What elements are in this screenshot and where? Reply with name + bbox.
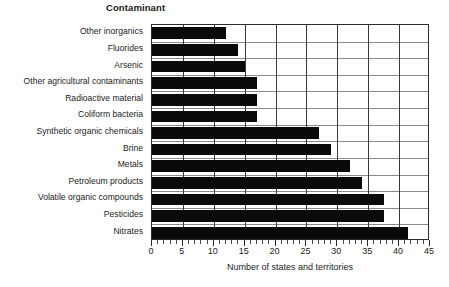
bar[interactable]	[152, 111, 257, 123]
category-label: Metals	[118, 159, 143, 169]
tick-minor	[410, 240, 411, 244]
x-tick-label: 10	[208, 246, 218, 256]
tick-minor	[170, 240, 171, 244]
x-tick-label: 45	[424, 246, 434, 256]
value-axis: 051015202530354045	[151, 240, 429, 254]
category-label: Volatile organic compounds	[38, 192, 143, 202]
tick-minor	[207, 240, 208, 244]
category-label: Pesticides	[104, 209, 143, 219]
page-title: Contaminant	[106, 2, 226, 13]
tick-minor	[194, 240, 195, 244]
x-tick-label: 20	[270, 246, 280, 256]
bar[interactable]	[152, 61, 245, 73]
tick-minor	[225, 240, 226, 244]
bar-row[interactable]	[152, 127, 428, 139]
bar-row[interactable]	[152, 44, 428, 56]
x-tick-label: 25	[300, 246, 310, 256]
category-label: Arsenic	[114, 60, 143, 70]
x-tick-label: 0	[148, 246, 153, 256]
category-label: Synthetic organic chemicals	[36, 126, 143, 136]
category-axis-labels: Other inorganicsFluoridesArsenicOther ag…	[0, 24, 147, 240]
category-label: Fluorides	[108, 43, 143, 53]
tick-minor	[293, 240, 294, 244]
tick-minor	[287, 240, 288, 244]
bar-row[interactable]	[152, 94, 428, 106]
tick-minor	[312, 240, 313, 244]
x-tick-label: 30	[331, 246, 341, 256]
bar[interactable]	[152, 160, 350, 172]
category-label: Other agricultural contaminants	[24, 76, 143, 86]
bar[interactable]	[152, 44, 238, 56]
bar-row[interactable]	[152, 111, 428, 123]
tick-minor	[200, 240, 201, 244]
tick-minor	[237, 240, 238, 244]
x-tick-label: 40	[393, 246, 403, 256]
bar-row[interactable]	[152, 144, 428, 156]
bar-row[interactable]	[152, 77, 428, 89]
tick-minor	[176, 240, 177, 244]
plot-area	[151, 24, 429, 240]
category-label: Other inorganics	[80, 26, 143, 36]
tick-minor	[299, 240, 300, 244]
bar-row[interactable]	[152, 194, 428, 206]
tick-minor	[262, 240, 263, 244]
tick-minor	[361, 240, 362, 244]
category-label: Brine	[123, 143, 143, 153]
bar-row[interactable]	[152, 61, 428, 73]
bar-row[interactable]	[152, 27, 428, 39]
bar[interactable]	[152, 210, 384, 222]
bar-chart-figure: Contaminant Other inorganicsFluoridesArs…	[0, 0, 449, 287]
tick-minor	[355, 240, 356, 244]
bar[interactable]	[152, 127, 319, 139]
category-label: Petroleum products	[68, 176, 143, 186]
tick-minor	[268, 240, 269, 244]
tick-minor	[231, 240, 232, 244]
tick-minor	[188, 240, 189, 244]
bar-row[interactable]	[152, 177, 428, 189]
tick-minor	[324, 240, 325, 244]
tick-minor	[380, 240, 381, 244]
tick-minor	[250, 240, 251, 244]
bar[interactable]	[152, 77, 257, 89]
bar[interactable]	[152, 94, 257, 106]
bar[interactable]	[152, 27, 226, 39]
tick-minor	[281, 240, 282, 244]
tick-minor	[349, 240, 350, 244]
bar[interactable]	[152, 194, 384, 206]
tick-minor	[417, 240, 418, 244]
tick-minor	[404, 240, 405, 244]
bar[interactable]	[152, 227, 408, 239]
bar-row[interactable]	[152, 210, 428, 222]
tick-minor	[219, 240, 220, 244]
bar[interactable]	[152, 177, 362, 189]
x-tick-label: 5	[179, 246, 184, 256]
tick-minor	[386, 240, 387, 244]
x-tick-label: 35	[362, 246, 372, 256]
tick-minor	[423, 240, 424, 244]
tick-minor	[318, 240, 319, 244]
tick-minor	[373, 240, 374, 244]
tick-minor	[343, 240, 344, 244]
x-axis-title: Number of states and territories	[151, 262, 429, 272]
tick-minor	[157, 240, 158, 244]
bar-row[interactable]	[152, 227, 428, 239]
bar-row[interactable]	[152, 160, 428, 172]
tick-minor	[256, 240, 257, 244]
tick-minor	[392, 240, 393, 244]
tick-minor	[330, 240, 331, 244]
category-label: Nitrates	[113, 226, 143, 236]
x-tick-label: 15	[239, 246, 249, 256]
bar[interactable]	[152, 144, 331, 156]
tick-minor	[163, 240, 164, 244]
category-label: Radioactive material	[65, 93, 143, 103]
bars-layer	[152, 25, 428, 239]
category-label: Coliform bacteria	[78, 109, 143, 119]
